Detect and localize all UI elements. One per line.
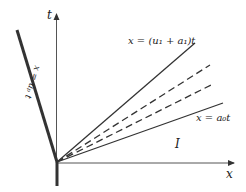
piston-path-line-upper [17, 30, 57, 162]
rarefaction-wave-diagram: t x x = uₚ t x = (u₁ + a₁)t x = a₀t I [0, 0, 246, 192]
fan-dashed-line-2 [57, 84, 213, 162]
x-axis-label: x [226, 167, 233, 181]
t-axis-label: t [47, 8, 52, 22]
piston-path-label: x = uₚ t [23, 64, 43, 100]
upper-characteristic-label: x = (u₁ + a₁)t [128, 35, 196, 46]
lower-characteristic-label: x = a₀t [196, 112, 231, 123]
region-I-label: I [174, 137, 180, 151]
fan-dashed-line-1 [57, 65, 210, 162]
